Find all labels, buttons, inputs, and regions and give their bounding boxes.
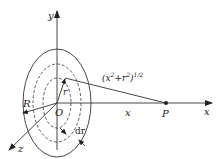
ring-width-label: dr [75,126,86,136]
dr-arrow-inner [60,128,66,134]
axial-distance-label: x [125,107,131,118]
z-axis-label: z [17,143,24,154]
y-axis-label: y [47,10,54,21]
slant-distance-label: (x2+r2)1/2 [102,71,143,83]
inner-radius-label: r [63,87,68,97]
outer-radius-label: R [22,98,31,109]
origin-label: O [55,107,63,118]
point-P-marker [164,101,168,105]
point-P-label: P [161,108,169,119]
x-axis-label: x [204,106,210,117]
ring-field-diagram: y x z O R r dr x P (x2+r2)1/2 [0,0,217,159]
